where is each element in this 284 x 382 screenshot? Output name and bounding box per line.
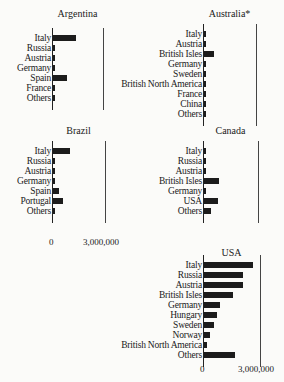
australia-3m-reference-line [256,24,257,126]
category-label: Germany [168,187,202,195]
bar-others [53,95,55,101]
category-label: British North America [121,341,202,349]
bar-norway [204,332,210,338]
bar-china [204,101,206,107]
category-label: Austria [24,167,51,175]
category-label: Sweden [173,321,202,329]
bar-russia [53,45,55,51]
category-label: Austria [175,40,202,48]
bar-france [53,85,55,91]
bar-austria [204,168,206,174]
category-label: Russia [27,157,51,165]
category-label: Spain [30,74,51,82]
category-label: Hungary [170,311,202,319]
category-label: Portugal [20,197,51,205]
brazil-panel-title: Brazil [39,125,119,136]
bar-france [204,91,206,97]
bar-austria [204,282,243,288]
category-label: Austria [175,281,202,289]
bar-italy [204,262,253,268]
brazil-tick-max: 3,000,000 [83,237,119,247]
category-label: Russia [27,44,51,52]
category-label: Russia [178,157,202,165]
category-label: British Isles [159,291,202,299]
bar-italy [53,148,70,154]
category-label: Others [27,94,51,102]
bar-hungary [204,312,217,318]
bar-austria [53,55,55,61]
usa-tick-max: 3,000,000 [238,364,274,374]
bar-spain [53,188,59,194]
bar-sweden [204,322,214,328]
category-label: Russia [178,271,202,279]
category-label: Germany [17,64,51,72]
bar-russia [204,158,206,164]
category-label: British North America [121,80,202,88]
category-label: British Isles [159,177,202,185]
category-label: Germany [168,60,202,68]
brazil-3m-reference-line [105,141,106,223]
category-label: Others [178,207,202,215]
bar-sweden [204,71,206,77]
australia-panel-title: Australia* [190,8,270,19]
argentina-3m-reference-line [103,28,104,110]
category-label: USA [184,197,202,205]
bar-spain [53,75,67,81]
bar-usa [204,198,218,204]
usa-tick-zero: 0 [200,364,205,374]
bar-others [204,111,206,117]
bar-austria [53,168,55,174]
category-label: Austria [175,167,202,175]
category-label: China [180,100,202,108]
bar-portugal [53,198,63,204]
category-label: France [177,90,202,98]
category-label: Others [178,110,202,118]
bar-italy [53,35,76,41]
bar-british-north-america [204,81,206,87]
bar-others [204,208,211,214]
bar-germany [204,302,220,308]
category-label: Italy [35,34,51,42]
canada-panel-title: Canada [191,125,271,136]
bar-germany [53,65,55,71]
category-label: Italy [186,261,202,269]
bar-germany [53,178,55,184]
bar-british-isles [204,292,233,298]
bar-austria [204,41,206,47]
category-label: British Isles [159,50,202,58]
category-label: Italy [186,147,202,155]
usa-3m-reference-line [260,255,261,367]
category-label: Spain [30,187,51,195]
bar-russia [53,158,55,164]
category-label: Others [178,351,202,359]
bar-british-isles [204,51,214,57]
bar-russia [204,272,243,278]
category-label: Others [27,207,51,215]
brazil-tick-zero: 0 [49,237,54,247]
bar-british-isles [204,178,219,184]
category-label: France [26,84,51,92]
category-label: Italy [186,30,202,38]
bar-italy [204,148,206,154]
category-label: Italy [35,147,51,155]
category-label: Germany [17,177,51,185]
bar-italy [204,31,206,37]
category-label: Germany [168,301,202,309]
bar-others [53,208,55,214]
argentina-panel-title: Argentina [38,8,118,19]
bar-british-north-america [204,342,207,348]
category-label: Austria [24,54,51,62]
category-label: Norway [173,331,202,339]
bar-germany [204,61,206,67]
bar-others [204,352,235,358]
category-label: Sweden [173,70,202,78]
bar-germany [204,188,206,194]
canada-3m-reference-line [258,141,259,223]
